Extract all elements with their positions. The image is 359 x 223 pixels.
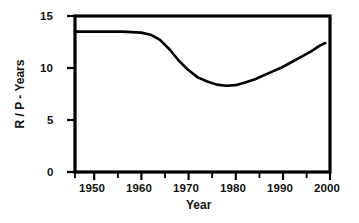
y-tick-label-15: 15 bbox=[40, 10, 53, 22]
data-series-line bbox=[75, 32, 325, 86]
y-tick-label-5: 5 bbox=[47, 114, 54, 126]
chart-container: R / P - Years 15 10 5 0 1950 1960 1970 1… bbox=[0, 0, 359, 223]
x-tick-label-2000: 2000 bbox=[314, 182, 340, 194]
x-tick-label-1970: 1970 bbox=[173, 182, 199, 194]
plot-frame-rect bbox=[75, 16, 330, 172]
y-tick-label-0: 0 bbox=[47, 166, 54, 178]
x-tick-label-1980: 1980 bbox=[220, 182, 246, 194]
y-axis-title: R / P - Years bbox=[13, 59, 27, 128]
axis-frame bbox=[75, 16, 330, 172]
x-tick-label-1950: 1950 bbox=[79, 182, 105, 194]
x-tick-label-1990: 1990 bbox=[267, 182, 293, 194]
x-tick-label-1960: 1960 bbox=[126, 182, 152, 194]
y-tick-label-10: 10 bbox=[40, 62, 53, 74]
x-axis-title: Year bbox=[186, 198, 211, 212]
